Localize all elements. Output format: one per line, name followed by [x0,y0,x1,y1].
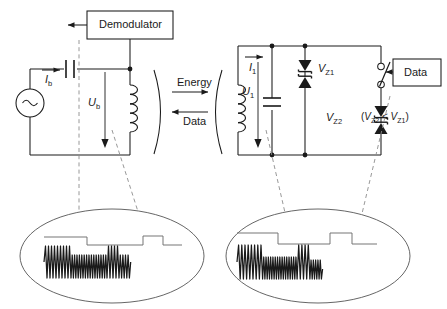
primary-voltage-arrow-head [101,139,108,148]
secondary-field-bracket [216,70,223,154]
primary-circuit [16,11,173,155]
switch-terminal-top[interactable] [378,63,385,70]
zener2-label: VZ2 [326,112,342,126]
schematic-layer [0,0,447,309]
secondary-voltage-label: U1 [242,86,254,100]
primary-waveform-callout [20,209,204,303]
energy-label: Energy [177,77,212,88]
secondary-current-label: I1 [249,62,256,76]
secondary-voltage-arrow-head [254,139,261,148]
primary-field-bracket [154,70,161,154]
primary-coil [130,85,138,132]
primary-voltage-label: Ub [88,97,100,111]
circuit-diagram: Demodulator Ib Ub Energy Data I1 U1 VZ1 … [0,0,447,309]
data-block-label: Data [404,67,427,78]
zener1a-triangle [299,60,312,71]
zener-comparison-note: (VZ2 < VZ1) [361,112,409,124]
demodulator-label: Demodulator [99,19,162,30]
zener1b-triangle [299,77,312,88]
primary-current-label: Ib [45,74,52,88]
secondary-waveform-callout [226,209,410,303]
data-flow-label: Data [183,116,206,127]
zener1-label: VZ1 [318,63,334,77]
zener-pair-1 [299,60,312,88]
